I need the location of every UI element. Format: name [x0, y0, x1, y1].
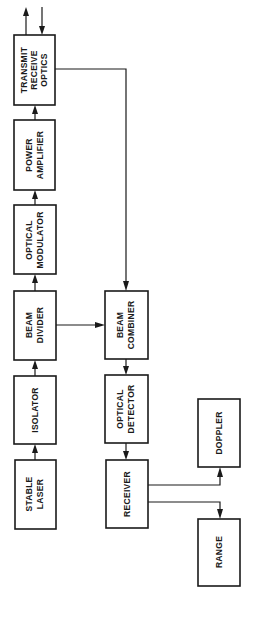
arrowhead-right-icon [95, 322, 105, 328]
arrowhead-up-icon [32, 444, 38, 453]
block-receiver: RECEIVER [106, 460, 148, 528]
arrowhead-down-icon [123, 451, 129, 460]
label-line: ISOLATOR [30, 387, 40, 433]
label-line: MODULATOR [35, 211, 45, 268]
arrow-isolator-to-divider [32, 360, 38, 376]
label-line: RANGE [214, 536, 224, 568]
label-line: BEAM [24, 312, 34, 338]
block-optical-modulator: OPTICAL MODULATOR [14, 205, 56, 274]
block-transmit-receive-optics: TRANSMIT RECEIVE OPTICS [14, 35, 55, 105]
arrow-combiner-to-detector [123, 359, 129, 375]
label-line: TRANSMIT [19, 46, 29, 93]
arrow-divider-to-combiner [56, 322, 105, 328]
block-doppler: DOPPLER [198, 399, 240, 467]
label-line: RECEIVER [122, 471, 132, 517]
label-line: DOPPLER [214, 411, 224, 454]
arrow-detector-to-receiver [123, 443, 129, 460]
arrow-laser-to-isolator [32, 444, 38, 460]
arrowhead-down-icon [39, 26, 45, 35]
arrow-receiver-to-doppler [148, 467, 223, 485]
arrowhead-down-icon [123, 281, 129, 291]
label-line: OPTICS [39, 53, 49, 86]
label-line: AMPLIFIER [35, 131, 45, 180]
label-line: OPTICAL [24, 220, 34, 259]
block-beam-combiner: BEAM COMBINER [105, 291, 148, 359]
label-line: DIVIDER [35, 307, 45, 344]
block-optical-detector: OPTICAL DETECTOR [105, 375, 148, 443]
arrow-output-beam [23, 7, 29, 35]
label-line: OPTICAL [115, 389, 125, 428]
block-beam-divider: BEAM DIVIDER [14, 291, 56, 360]
arrowhead-down-icon [123, 366, 129, 375]
label-line: LASER [35, 479, 45, 509]
arrow-optics-to-combiner [55, 69, 129, 291]
label-line: POWER [24, 138, 34, 172]
label-line: RECEIVE [29, 50, 39, 89]
label-line: COMBINER [126, 301, 136, 350]
label-line: STABLE [24, 476, 34, 511]
arrowhead-up-icon [217, 467, 223, 477]
arrowhead-up-icon [32, 274, 38, 283]
arrowhead-up-icon [23, 7, 29, 16]
arrowhead-up-icon [32, 190, 38, 199]
arrow-modulator-to-amplifier [32, 190, 38, 205]
arrow-receiver-to-range [148, 502, 223, 519]
label-line: DETECTOR [126, 385, 136, 434]
block-isolator: ISOLATOR [14, 376, 56, 444]
arrowhead-down-icon [217, 509, 223, 519]
arrow-amplifier-to-optics [32, 105, 38, 120]
laser-radar-diagram: TRANSMIT RECEIVE OPTICS POWER AMPLIFIER … [0, 0, 260, 621]
arrow-return-beam [39, 7, 45, 35]
block-stable-laser: STABLE LASER [15, 460, 56, 529]
block-power-amplifier: POWER AMPLIFIER [14, 120, 55, 190]
arrow-divider-to-modulator [32, 274, 38, 291]
arrowhead-up-icon [32, 105, 38, 114]
label-line: BEAM [115, 312, 125, 338]
block-range: RANGE [198, 519, 240, 586]
arrowhead-up-icon [32, 360, 38, 369]
